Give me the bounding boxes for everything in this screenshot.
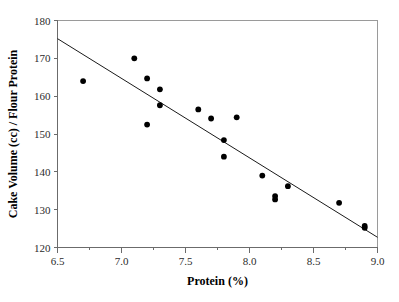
x-axis-ticks: 6.57.07.58.08.59.0	[51, 248, 385, 267]
x-tick-label: 8.0	[243, 255, 257, 267]
y-axis-ticks: 120130140150160170180	[34, 15, 58, 254]
regression-line	[58, 39, 378, 238]
data-point	[285, 183, 291, 189]
y-tick-label: 160	[34, 90, 51, 102]
data-point	[208, 116, 214, 122]
data-point	[144, 75, 150, 81]
x-tick-label: 7.5	[179, 255, 193, 267]
data-point	[272, 197, 278, 203]
chart-canvas: 1201301401501601701806.57.07.58.08.59.0P…	[0, 0, 399, 302]
x-tick-label: 9.0	[371, 255, 385, 267]
data-point	[234, 114, 240, 120]
y-tick-label: 130	[34, 204, 51, 216]
data-point	[336, 200, 342, 206]
y-tick-label: 120	[34, 242, 51, 254]
data-point	[80, 78, 86, 84]
axis-lines	[58, 21, 378, 248]
data-point	[144, 122, 150, 128]
y-tick-label: 180	[34, 15, 51, 27]
data-point	[221, 154, 227, 160]
x-axis-title: Protein (%)	[187, 274, 248, 288]
data-point	[195, 107, 201, 113]
data-point	[362, 225, 368, 231]
x-tick-label: 8.5	[307, 255, 321, 267]
x-tick-label: 7.0	[115, 255, 129, 267]
data-point	[157, 102, 163, 108]
scatter-plot-figure: 1201301401501601701806.57.07.58.08.59.0P…	[0, 0, 399, 302]
data-point	[221, 137, 227, 143]
plot-frame	[58, 21, 378, 248]
y-tick-label: 140	[34, 166, 51, 178]
data-point	[131, 55, 137, 61]
data-point	[259, 173, 265, 179]
data-point	[157, 86, 163, 92]
y-axis-title: Cake Volume (cc) / Flour Protein	[6, 49, 20, 218]
y-tick-label: 150	[34, 128, 51, 140]
x-tick-label: 6.5	[51, 255, 65, 267]
y-tick-label: 170	[34, 52, 51, 64]
